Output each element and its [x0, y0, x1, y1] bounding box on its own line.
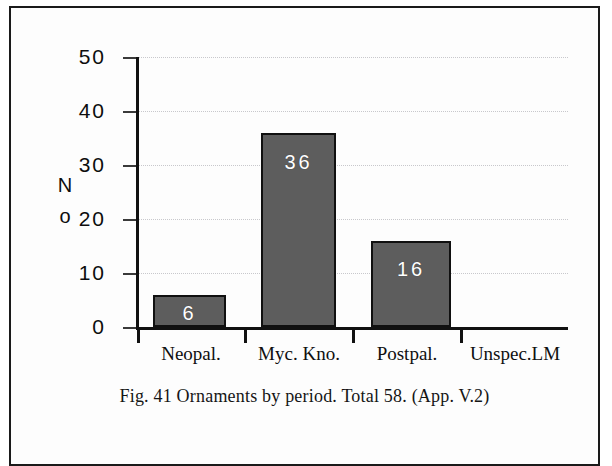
x-tick-3 [460, 330, 463, 343]
y-tick-label-40: 40 [48, 100, 106, 121]
y-tick-label-50: 50 [48, 46, 106, 67]
gridline-50 [139, 57, 568, 59]
figure-caption: Fig. 41 Ornaments by period. Total 58. (… [9, 386, 600, 407]
gridline-30 [139, 165, 568, 167]
y-tick-50 [123, 57, 137, 59]
y-tick-0 [123, 327, 137, 329]
gridline-10 [139, 273, 568, 275]
bar-value-postpal: 16 [371, 259, 451, 279]
y-tick-30 [123, 165, 137, 167]
bar-value-neopal: 6 [153, 303, 226, 323]
x-tick-1 [244, 330, 247, 343]
x-label-myc-kno: Myc. Kno. [245, 344, 353, 365]
x-label-unspec-lm: Unspec.LM [461, 344, 569, 365]
x-label-postpal: Postpal. [353, 344, 461, 365]
x-label-neopal: Neopal. [137, 344, 245, 365]
gridline-40 [139, 111, 568, 113]
y-tick-20 [123, 219, 137, 221]
y-tick-label-10: 10 [48, 262, 106, 283]
x-tick-0 [137, 330, 140, 343]
x-tick-2 [352, 330, 355, 343]
y-axis-line [136, 57, 139, 329]
y-axis-title: N o [52, 170, 78, 232]
y-axis-title-char-2: o [52, 201, 78, 232]
y-tick-label-0: 0 [48, 316, 106, 337]
y-axis-title-char-1: N [52, 170, 78, 201]
gridline-20 [139, 219, 568, 221]
bar-postpal [371, 241, 451, 327]
bar-value-myc-kno: 36 [261, 152, 336, 172]
y-tick-10 [123, 273, 137, 275]
y-tick-40 [123, 111, 137, 113]
